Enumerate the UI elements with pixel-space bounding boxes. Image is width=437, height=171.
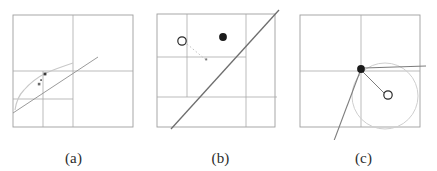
panel-a-graphic — [0, 0, 147, 140]
panel-b-caption: (b) — [147, 150, 294, 167]
panel-a-caption: (a) — [0, 150, 147, 167]
panel-c-graphic — [290, 0, 437, 140]
panel-c: (c) — [290, 0, 437, 171]
panel-b-dotted-connector — [187, 44, 206, 60]
panel-a-sample-marker-1 — [44, 73, 47, 76]
panel-b-filled-dot — [219, 33, 227, 41]
panel-c-radius-line — [362, 71, 384, 93]
panel-a-sample-marker-2 — [40, 79, 42, 81]
panel-c-caption: (c) — [290, 150, 437, 167]
panel-c-filled-dot — [357, 65, 365, 73]
panel-b-graphic — [147, 0, 294, 140]
panel-c-ray-right — [364, 66, 426, 68]
panel-b-open-circle — [178, 37, 186, 45]
panel-b-box — [157, 14, 275, 127]
panel-c-open-circle — [384, 91, 392, 99]
panel-c-ray-down-left — [332, 69, 361, 140]
panel-a: (a) — [0, 0, 147, 171]
panel-a-sample-marker-3 — [38, 83, 41, 86]
panel-a-curve — [15, 63, 73, 110]
panel-a-straight-line — [13, 57, 98, 113]
figure-container: (a) (b) — [0, 0, 437, 171]
panel-b: (b) — [147, 0, 294, 171]
panel-b-projection-marker — [205, 58, 207, 60]
